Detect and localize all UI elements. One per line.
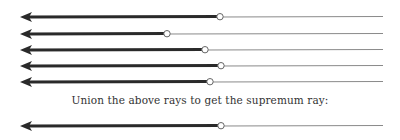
thin-segment [220, 17, 383, 18]
ray-2 [20, 29, 383, 39]
ray-4 [20, 61, 383, 71]
thick-segment [28, 34, 167, 35]
thin-segment [205, 50, 383, 51]
thick-segment [28, 17, 220, 18]
thick-segment [28, 66, 221, 67]
ray-1 [20, 12, 383, 22]
thin-segment [221, 66, 383, 67]
open-endpoint-icon [218, 62, 224, 68]
thin-segment [210, 82, 383, 83]
open-endpoint-icon [164, 31, 170, 37]
supremum-ray [20, 121, 383, 131]
thin-segment [221, 126, 383, 127]
ray-3 [20, 45, 383, 55]
open-endpoint-icon [202, 47, 208, 53]
thick-segment [28, 126, 221, 127]
rays-diagram [0, 0, 400, 140]
open-endpoint-icon [207, 79, 213, 85]
caption-text: Union the above rays to get the supremum… [0, 94, 400, 106]
open-endpoint-icon [217, 14, 223, 20]
thick-segment [28, 50, 205, 51]
open-endpoint-icon [218, 123, 224, 129]
thick-segment [28, 82, 210, 83]
thin-segment [167, 34, 383, 35]
ray-5 [20, 77, 383, 87]
